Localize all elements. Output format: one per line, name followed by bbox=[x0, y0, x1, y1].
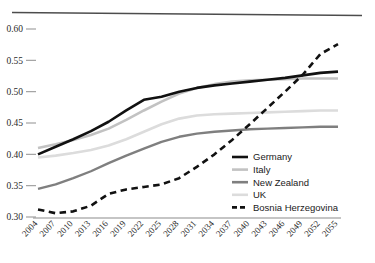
x-tick-label: 2037 bbox=[214, 218, 234, 238]
y-tick-label: 0.55 bbox=[6, 56, 23, 66]
series-line-germany bbox=[38, 72, 338, 155]
x-tick-label: 2016 bbox=[90, 218, 110, 238]
x-tick-label: 2052 bbox=[302, 219, 322, 239]
x-tick-label: 2055 bbox=[320, 218, 340, 238]
y-axis-ticks bbox=[26, 29, 36, 217]
chart-figure: 0.600.550.500.450.400.350.30 20042007201… bbox=[0, 0, 375, 263]
y-tick-label: 0.50 bbox=[6, 87, 23, 97]
x-tick-label: 2025 bbox=[143, 218, 163, 238]
legend-label-uk: UK bbox=[253, 189, 267, 200]
legend-label-germany: Germany bbox=[253, 151, 292, 162]
y-tick-label: 0.45 bbox=[6, 118, 23, 128]
x-tick-label: 2022 bbox=[126, 219, 146, 239]
x-tick-label: 2049 bbox=[285, 218, 305, 238]
x-tick-label: 2028 bbox=[161, 218, 181, 238]
y-tick-label: 0.35 bbox=[6, 181, 23, 191]
legend-label-new-zealand: New Zealand bbox=[253, 177, 309, 188]
y-tick-label: 0.40 bbox=[6, 150, 23, 160]
line-chart-canvas: 0.600.550.500.450.400.350.30 20042007201… bbox=[0, 0, 375, 263]
x-tick-label: 2007 bbox=[38, 218, 58, 238]
chart-legend: GermanyItalyNew ZealandUKBosnia Herzegov… bbox=[232, 151, 339, 212]
series-group bbox=[38, 44, 338, 213]
x-axis-labels: 2004200720102013201620192022202520282031… bbox=[20, 218, 340, 238]
x-tick-label: 2034 bbox=[196, 218, 216, 238]
y-axis-labels: 0.600.550.500.450.400.350.30 bbox=[6, 24, 23, 222]
x-tick-label: 2013 bbox=[73, 218, 93, 238]
x-tick-label: 2046 bbox=[267, 218, 287, 238]
x-tick-label: 2043 bbox=[249, 218, 269, 238]
y-tick-label: 0.30 bbox=[6, 212, 23, 222]
x-tick-label: 2031 bbox=[179, 219, 199, 239]
x-tick-label: 2019 bbox=[108, 218, 128, 238]
top-rule bbox=[12, 13, 362, 16]
legend-label-bosnia-herzegovina: Bosnia Herzegovina bbox=[253, 202, 339, 213]
x-tick-label: 2040 bbox=[232, 218, 252, 238]
x-tick-label: 2010 bbox=[55, 218, 75, 238]
y-tick-label: 0.60 bbox=[6, 24, 23, 34]
legend-label-italy: Italy bbox=[253, 164, 271, 175]
